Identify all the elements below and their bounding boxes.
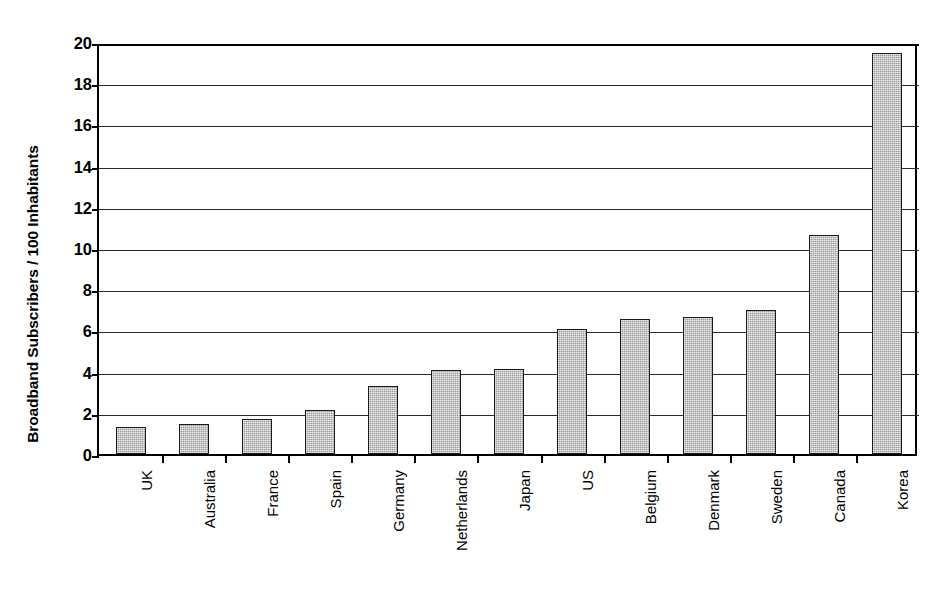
x-axis-label-sweden: Sweden <box>768 470 786 580</box>
y-tick-mark-6 <box>92 332 99 334</box>
bar-belgium <box>620 319 650 454</box>
y-tick-label-14: 14 <box>74 157 92 177</box>
bar-netherlands <box>431 370 461 454</box>
x-tick-mark-4 <box>351 456 353 463</box>
y-tick-2: 2 <box>99 415 100 416</box>
gridline-18 <box>99 85 919 86</box>
x-tick-mark-2 <box>225 456 227 463</box>
y-tick-14: 14 <box>99 168 100 169</box>
x-axis-label-korea: Korea <box>894 470 912 580</box>
x-axis-label-australia: Australia <box>201 470 219 580</box>
y-axis-title: Broadband Subscribers / 100 Inhabitants <box>16 88 50 500</box>
y-tick-8: 8 <box>99 291 100 292</box>
x-tick-mark-9 <box>667 456 669 463</box>
gridline-20 <box>99 44 919 46</box>
bar-us <box>557 329 587 454</box>
y-tick-label-4: 4 <box>83 363 92 383</box>
bar-korea <box>872 53 902 454</box>
y-tick-label-16: 16 <box>74 115 92 135</box>
x-axis-label-canada: Canada <box>831 470 849 580</box>
x-tick-mark-6 <box>477 456 479 463</box>
x-tick-mark-11 <box>793 456 795 463</box>
x-tick-mark-10 <box>730 456 732 463</box>
y-tick-label-6: 6 <box>83 321 92 341</box>
y-tick-label-12: 12 <box>74 198 92 218</box>
x-tick-mark-3 <box>288 456 290 463</box>
bar-spain <box>305 410 335 454</box>
bar-japan <box>494 369 524 454</box>
y-tick-0: 0 <box>99 456 100 457</box>
bar-france <box>242 419 272 454</box>
y-tick-10: 10 <box>99 250 100 251</box>
bar-uk <box>116 427 146 454</box>
y-tick-label-20: 20 <box>74 33 92 53</box>
x-axis-label-spain: Spain <box>327 470 345 580</box>
gridline-12 <box>99 209 919 210</box>
bar-australia <box>179 424 209 454</box>
y-tick-label-0: 0 <box>83 445 92 465</box>
gridline-16 <box>99 126 919 127</box>
y-tick-mark-12 <box>92 209 99 211</box>
x-axis-label-belgium: Belgium <box>642 470 660 580</box>
y-tick-label-10: 10 <box>74 239 92 259</box>
y-tick-18: 18 <box>99 85 100 86</box>
y-tick-mark-14 <box>92 168 99 170</box>
y-tick-16: 16 <box>99 126 100 127</box>
y-tick-label-18: 18 <box>74 74 92 94</box>
y-tick-mark-10 <box>92 250 99 252</box>
y-tick-4: 4 <box>99 374 100 375</box>
y-tick-label-2: 2 <box>83 404 92 424</box>
x-axis-label-germany: Germany <box>390 470 408 580</box>
gridline-14 <box>99 168 919 169</box>
x-axis-label-netherlands: Netherlands <box>453 470 471 580</box>
y-tick-mark-20 <box>92 44 99 46</box>
y-tick-mark-8 <box>92 291 99 293</box>
x-axis-label-france: France <box>264 470 282 580</box>
x-tick-mark-5 <box>414 456 416 463</box>
x-axis-label-japan: Japan <box>516 470 534 580</box>
y-tick-mark-4 <box>92 374 99 376</box>
y-tick-6: 6 <box>99 332 100 333</box>
y-tick-mark-16 <box>92 126 99 128</box>
gridline-10 <box>99 250 919 251</box>
bar-sweden <box>746 310 776 454</box>
x-axis-label-uk: UK <box>138 470 156 580</box>
x-tick-mark-7 <box>541 456 543 463</box>
y-tick-20: 20 <box>99 44 100 45</box>
y-tick-12: 12 <box>99 209 100 210</box>
gridline-8 <box>99 291 919 292</box>
x-axis-label-us: US <box>579 470 597 580</box>
y-tick-mark-0 <box>92 456 99 458</box>
y-tick-mark-18 <box>92 85 99 87</box>
gridline-6 <box>99 332 919 333</box>
broadband-subscribers-bar-chart: Broadband Subscribers / 100 Inhabitants … <box>0 0 952 594</box>
y-tick-label-8: 8 <box>83 280 92 300</box>
x-tick-mark-8 <box>604 456 606 463</box>
bar-germany <box>368 386 398 454</box>
plot-area: 02468101214161820 <box>97 44 917 456</box>
x-tick-mark-1 <box>162 456 164 463</box>
x-axis-label-denmark: Denmark <box>705 470 723 580</box>
y-tick-mark-2 <box>92 415 99 417</box>
bar-canada <box>809 235 839 454</box>
bar-denmark <box>683 317 713 454</box>
x-tick-mark-12 <box>856 456 858 463</box>
